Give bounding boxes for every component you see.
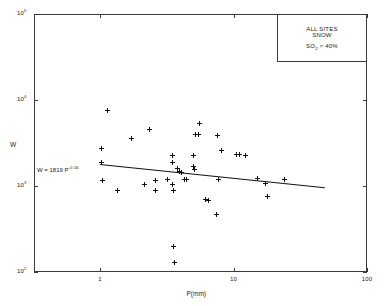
- data-point-marker: [100, 178, 105, 183]
- data-point-marker: [265, 194, 270, 199]
- data-point-marker: [171, 244, 176, 249]
- data-point-marker: [243, 153, 248, 158]
- y-tick-label: 104: [17, 96, 26, 102]
- fit-equation-text: W = 1819 P: [37, 167, 69, 173]
- y-tick-label: 105: [17, 10, 26, 16]
- fit-equation-exponent: -0.16: [69, 165, 79, 170]
- data-point-marker: [153, 178, 158, 183]
- y-axis-title: W: [10, 141, 16, 148]
- data-point-marker: [129, 136, 134, 141]
- y-tick: [363, 272, 367, 273]
- y-tick: [34, 100, 38, 101]
- data-point-marker: [171, 188, 176, 193]
- y-tick: [363, 100, 367, 101]
- x-axis-title: P(mm): [187, 290, 207, 297]
- data-point-marker: [153, 188, 158, 193]
- legend-so2-prefix: SO: [306, 43, 315, 49]
- x-tick: [367, 14, 368, 18]
- x-tick-label: 1: [94, 276, 106, 282]
- x-tick: [234, 268, 235, 272]
- data-point-marker: [214, 212, 219, 217]
- data-point-marker: [192, 167, 197, 172]
- data-point-marker: [105, 108, 110, 113]
- data-point-marker: [216, 177, 221, 182]
- data-point-marker: [219, 148, 224, 153]
- data-point-marker: [237, 152, 242, 157]
- data-point-marker: [196, 132, 201, 137]
- data-point-marker: [184, 177, 189, 182]
- y-tick-label: 102: [17, 268, 26, 274]
- y-tick: [34, 14, 38, 15]
- data-point-marker: [142, 182, 147, 187]
- data-point-marker: [115, 188, 120, 193]
- x-tick: [100, 268, 101, 272]
- data-point-marker: [147, 127, 152, 132]
- data-point-marker: [170, 182, 175, 187]
- y-tick-label: 103: [17, 182, 26, 188]
- data-point-marker: [282, 177, 287, 182]
- data-point-marker: [99, 146, 104, 151]
- data-point-marker: [215, 133, 220, 138]
- x-tick-label: 100: [361, 276, 373, 282]
- data-point-marker: [170, 160, 175, 165]
- y-tick: [34, 186, 38, 187]
- x-tick-label: 10: [228, 276, 240, 282]
- data-point-marker: [191, 153, 196, 158]
- fit-equation-annotation: W = 1819 P-0.16: [37, 167, 79, 173]
- x-tick: [234, 14, 235, 18]
- y-tick: [363, 186, 367, 187]
- x-tick: [367, 268, 368, 272]
- data-point-marker: [170, 153, 175, 158]
- data-point-marker: [172, 260, 177, 265]
- x-tick: [100, 14, 101, 18]
- legend-line-snow: SNOW: [312, 32, 331, 38]
- legend-line-so2-threshold: SO2 < 40%: [306, 43, 338, 49]
- data-point-marker: [197, 121, 202, 126]
- y-tick: [34, 272, 38, 273]
- legend-box: ALL SITES SNOW SO2 < 40%: [277, 14, 367, 62]
- legend-so2-suffix: < 40%: [318, 43, 338, 49]
- chart-container: 110100102103104105 W P(mm) W = 1819 P-0.…: [0, 0, 385, 306]
- data-point-marker: [206, 198, 211, 203]
